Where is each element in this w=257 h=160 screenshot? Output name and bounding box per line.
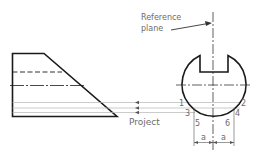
front-view: [176, 12, 252, 152]
point-3-label: 3: [185, 109, 190, 118]
arrow-left-icon: [135, 111, 139, 114]
point-2-label: 2: [241, 99, 246, 108]
point-1-label: 1: [179, 99, 184, 108]
reference-label-line1: Reference: [141, 13, 181, 22]
reference-pointer: [171, 24, 208, 31]
point-4-label: 4: [235, 109, 240, 118]
dimension-a-right: a: [221, 133, 226, 142]
circle-with-slot-outline: [182, 56, 246, 117]
arrow-left-icon: [135, 101, 139, 104]
reference-label-line2: plane: [141, 24, 163, 33]
point-5-label: 5: [195, 119, 200, 128]
side-view: [10, 54, 117, 117]
projection-lines: [13, 103, 241, 113]
project-label: Project: [129, 117, 160, 127]
arrow-left-icon: [135, 106, 139, 109]
side-view-outline: [13, 54, 118, 117]
point-6-label: 6: [225, 119, 230, 128]
dimension-a-left: a: [201, 133, 206, 142]
drawing-canvas: Project Reference plane 1 2 3 4 5 6 a a: [0, 0, 257, 160]
arrow-right-icon: [205, 21, 212, 26]
